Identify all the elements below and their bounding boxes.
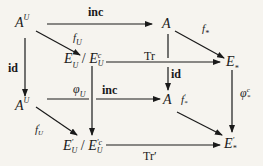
node-base: E [88,138,97,153]
label-sub: * [184,100,188,107]
node-A-top: A [162,17,171,31]
label-base: φ [240,86,247,100]
node-sep: / [77,138,88,153]
label-Tr: Tr [144,50,155,62]
node-base: E [226,54,235,69]
node-sub: * [235,64,239,73]
node-sub: * [233,145,237,153]
node-AU-bottom: AU [15,99,29,113]
node-Estar-top: E* [226,55,239,69]
label-fstar: f* [202,23,209,34]
node-AU-top: AU [15,16,29,30]
node-base: A [162,16,171,31]
arrow-fprimestar [177,112,222,135]
label-fprimestar: f′* [181,93,188,107]
label-fprimeU: f′U [35,123,43,137]
node-base: A [163,92,172,107]
node-base: E [89,51,98,66]
label-sub: * [205,29,209,38]
label-inc-top: inc [88,6,103,18]
commutative-diagram: AU A EU / EcU E* AU A E′U / E′cU E′* inc… [0,0,263,166]
node-base: E [63,138,72,153]
node-base: A [15,15,24,30]
arrow-fstar [175,31,224,58]
node-A-mid: A [163,93,172,107]
node-base: E [64,51,73,66]
label-phic-star: φc* [240,87,250,101]
label-sub: U [76,38,82,47]
node-sub: U [98,60,104,68]
label-id-left: id [8,62,18,74]
label-base: φ [73,82,80,96]
label-sub: * [247,94,251,101]
label-id-mid: id [171,68,181,80]
label-Trprime: Tr′ [143,150,157,162]
node-EUprime-quotient: E′U / E′cU [63,139,103,155]
node-base: A [15,98,24,113]
label-fU: fU [73,32,82,43]
node-base: E [224,136,233,151]
label-inc-mid: inc [102,84,117,96]
node-sup: U [24,13,30,22]
node-EU-quotient: EU / EcU [64,52,104,68]
label-sub: U [80,90,86,99]
node-Estar-prime: E′* [224,137,237,153]
node-sub: U [97,147,103,155]
node-sep: / [78,51,89,66]
node-sub: U [73,61,79,70]
node-sup: U [24,96,30,105]
label-sub: U [38,130,43,137]
label-phiU: φU [73,83,85,95]
